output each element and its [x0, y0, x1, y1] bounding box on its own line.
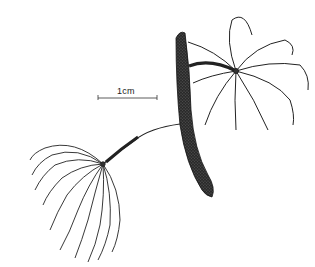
lower-pappus: [30, 145, 120, 262]
upper-pappus: [188, 17, 308, 130]
illustration-canvas: [0, 0, 315, 267]
scale-bar-label: 1cm: [117, 86, 135, 96]
stalk: [176, 32, 213, 197]
lower-stem: [103, 124, 180, 164]
